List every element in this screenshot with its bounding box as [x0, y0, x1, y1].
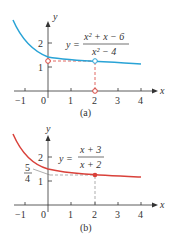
y-axis-arrow-icon	[46, 135, 51, 141]
x-tick-label: −1	[15, 95, 26, 106]
x-tick-label: 4	[138, 209, 143, 220]
x-tick-label: 4	[138, 95, 143, 106]
open-point-marker	[46, 59, 51, 64]
x-tick-label: 3	[115, 95, 120, 106]
x-axis-arrow-icon	[152, 89, 158, 94]
open-point-marker	[93, 89, 98, 94]
y-axis-label: y	[45, 123, 51, 134]
x-tick-label: −1	[15, 209, 26, 220]
leader-line	[33, 169, 50, 175]
equation-numerator: x + 3	[79, 144, 101, 155]
caption-a: (a)	[80, 107, 91, 119]
x-tick-label: 3	[115, 209, 120, 220]
x-axis-arrow-icon	[152, 203, 158, 208]
y-tick-label: 1	[38, 176, 43, 187]
y-tick-label: 2	[38, 38, 43, 49]
x-tick-label: 1	[68, 95, 73, 106]
hole-marker	[93, 59, 98, 64]
figure: y x −1 0 1 2 3 4 1 2 y = x² + x − 6 x² −…	[0, 0, 169, 235]
x-tick-label: 2	[92, 95, 97, 106]
fraction-denominator: 4	[25, 173, 30, 184]
x-axis-label: x	[159, 85, 165, 96]
x-tick-label: 0	[41, 209, 46, 220]
equation-denominator: x + 2	[79, 159, 101, 170]
caption-b: (b)	[80, 222, 92, 234]
x-tick-label: 1	[68, 209, 73, 220]
x-axis-label: x	[159, 199, 165, 210]
x-tick-label: 0	[41, 95, 46, 106]
x-tick-label: 2	[92, 209, 97, 220]
plot-a: y x −1 0 1 2 3 4 1 2 y = x² + x − 6 x² −…	[13, 11, 165, 119]
y-tick-label: 2	[38, 152, 43, 163]
filled-point-marker	[93, 173, 98, 178]
equation-lhs: y =	[58, 153, 73, 164]
equation-denominator: x² − 4	[91, 46, 116, 57]
curve-b	[13, 134, 141, 177]
equation-numerator: x² + x − 6	[83, 31, 124, 42]
plot-b: y x −1 0 1 2 3 4 1 2 5 4 y = x + 3 x + 2…	[13, 123, 165, 234]
y-axis-arrow-icon	[46, 21, 51, 27]
fraction-numerator: 5	[25, 162, 30, 173]
equation-lhs: y =	[65, 39, 80, 50]
y-axis-label: y	[52, 11, 58, 22]
y-tick-label: 1	[38, 62, 43, 73]
